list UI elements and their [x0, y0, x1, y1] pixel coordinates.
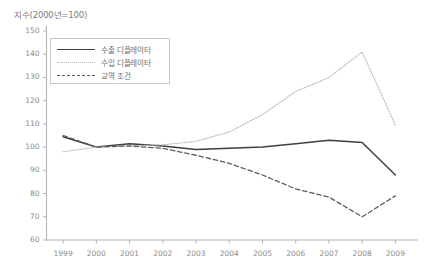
x-axis-tick-label: 2001 [113, 250, 147, 258]
line-chart: 지수(2000년=100) 60708090100110120130140150… [0, 0, 425, 273]
y-axis-tick-label: 150 [14, 27, 40, 35]
y-axis-tick-label: 120 [14, 97, 40, 105]
legend: 수출 디플레이터 수입 디플레이터 교역 조건 [50, 38, 170, 84]
x-axis-tick-label: 2000 [79, 250, 113, 258]
legend-line-dashed-icon [57, 71, 95, 80]
x-axis-tick-label: 2006 [279, 250, 313, 258]
legend-line-dotted-icon [57, 58, 95, 67]
x-axis-tick-label: 1999 [46, 250, 80, 258]
legend-label-terms-of-trade: 교역 조건 [95, 70, 130, 81]
legend-line-solid-icon [57, 45, 95, 54]
legend-label-import-deflator: 수입 디플레이터 [95, 57, 151, 68]
y-axis-tick-label: 130 [14, 73, 40, 81]
legend-item-export-deflator: 수출 디플레이터 [57, 43, 151, 55]
legend-item-import-deflator: 수입 디플레이터 [57, 56, 151, 68]
y-axis-tick-label: 80 [14, 190, 40, 198]
legend-item-terms-of-trade: 교역 조건 [57, 69, 130, 81]
series-line [63, 137, 395, 175]
legend-label-export-deflator: 수출 디플레이터 [95, 44, 151, 55]
y-axis-tick-label: 100 [14, 143, 40, 151]
y-axis-tick-label: 90 [14, 166, 40, 174]
y-axis-tick-label: 110 [14, 120, 40, 128]
x-axis-tick-label: 2007 [312, 250, 346, 258]
x-axis-tick-label: 2009 [378, 250, 412, 258]
y-axis-tick-label: 70 [14, 213, 40, 221]
x-axis-tick-label: 2003 [179, 250, 213, 258]
y-axis-tick-label: 140 [14, 50, 40, 58]
x-axis-tick-label: 2002 [146, 250, 180, 258]
x-axis-tick-label: 2005 [245, 250, 279, 258]
x-axis-tick-label: 2004 [212, 250, 246, 258]
x-axis-tick-label: 2008 [345, 250, 379, 258]
y-axis-tick-label: 60 [14, 236, 40, 244]
